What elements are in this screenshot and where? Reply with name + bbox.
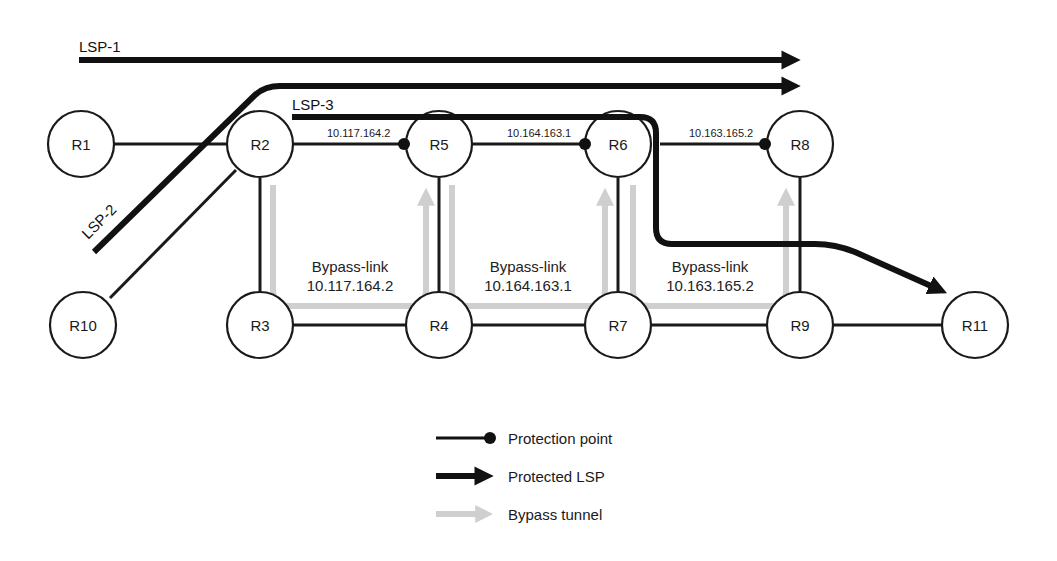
bypass-link-1-address: 10.117.164.2 [307,277,393,294]
legend-item-bypass-tunnel: Bypass tunnel [436,506,602,523]
node-r11[interactable]: R11 [942,292,1008,358]
svg-text:R10: R10 [69,317,97,334]
legend-item-protection-point: Protection point [436,430,613,447]
node-r8[interactable]: R8 [767,111,833,177]
protection-point-dot-icon [484,432,496,444]
node-r2[interactable]: R2 [227,111,293,177]
legend-label-protected-lsp: Protected LSP [508,468,605,485]
lsp-3-label: LSP-3 [292,96,334,113]
protection-point-dot-2 [579,138,591,150]
bypass-link-labels: Bypass-link 10.117.164.2 Bypass-link 10.… [307,258,754,294]
svg-text:R2: R2 [250,136,269,153]
protection-point-label-2: 10.164.163.1 [507,127,571,139]
svg-text:R4: R4 [429,317,448,334]
link-r2-r10 [110,170,236,298]
protection-point-label-3: 10.163.165.2 [689,127,753,139]
router-nodes: R1 R2 R3 R4 R5 R6 R7 R8 R9 R10 R11 [48,111,1008,358]
bypass-link-2-address: 10.164.163.1 [484,277,572,294]
node-r3[interactable]: R3 [227,292,293,358]
protection-point-dot-1 [398,138,410,150]
svg-text:R5: R5 [429,136,448,153]
svg-text:R8: R8 [790,136,809,153]
protection-points: 10.117.164.2 10.164.163.1 10.163.165.2 [327,127,771,150]
node-r5[interactable]: R5 [406,111,472,177]
svg-text:R6: R6 [608,136,627,153]
node-r10[interactable]: R10 [50,292,116,358]
node-r7[interactable]: R7 [585,292,651,358]
protection-point-label-1: 10.117.164.2 [327,127,390,139]
protection-point-dot-3 [759,138,771,150]
svg-text:R11: R11 [962,317,988,334]
bypass-link-1-title: Bypass-link [312,258,389,275]
svg-text:R9: R9 [790,317,809,334]
lsp-1-label: LSP-1 [79,38,121,55]
mpls-topology-diagram: R1 R2 R3 R4 R5 R6 R7 R8 R9 R10 R11 LSP-1… [0,0,1057,561]
legend: Protection point Protected LSP Bypass tu… [436,430,613,523]
node-r6[interactable]: R6 [585,111,651,177]
node-r9[interactable]: R9 [767,292,833,358]
node-r1[interactable]: R1 [48,111,114,177]
legend-label-protection-point: Protection point [508,430,613,447]
bypass-link-3-title: Bypass-link [672,258,749,275]
svg-text:R1: R1 [71,136,90,153]
svg-text:R3: R3 [250,317,269,334]
bypass-link-2-title: Bypass-link [490,258,567,275]
legend-item-protected-lsp: Protected LSP [436,468,605,485]
svg-text:R7: R7 [608,317,627,334]
legend-label-bypass-tunnel: Bypass tunnel [508,506,602,523]
bypass-link-3-address: 10.163.165.2 [666,277,754,294]
node-r4[interactable]: R4 [406,292,472,358]
